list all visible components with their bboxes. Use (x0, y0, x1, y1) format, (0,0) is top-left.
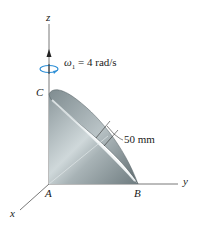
dimension-label: 50 mm (124, 134, 155, 145)
point-a-label: A (45, 188, 52, 199)
angular-velocity-label: ω1 = 4 rad/s (64, 57, 117, 71)
omega-subscript: 1 (72, 63, 76, 71)
cone-diagram (0, 0, 198, 225)
x-axis-label: x (10, 208, 15, 219)
rotation-arrow-icon (40, 64, 58, 74)
y-axis-label: y (183, 176, 188, 187)
omega-symbol: ω (64, 56, 72, 68)
z-axis-label: z (46, 12, 50, 23)
omega-value: = 4 rad/s (78, 56, 117, 68)
point-b-label: B (134, 188, 141, 199)
point-c-label: C (36, 87, 43, 98)
